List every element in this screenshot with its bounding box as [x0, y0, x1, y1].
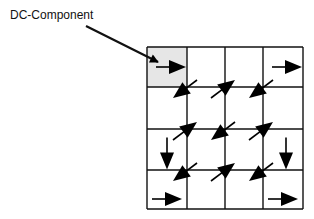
motion-vector-arrow [268, 192, 298, 206]
motion-vector-arrow [249, 163, 273, 181]
pointer-arrow [86, 26, 158, 62]
motion-vector-arrow [152, 192, 182, 206]
motion-vector-arrow [173, 163, 197, 181]
motion-vector-arrow [249, 122, 273, 140]
motion-vector-arrow [160, 138, 174, 170]
motion-vector-arrow [279, 138, 293, 170]
motion-vector-arrow [211, 122, 235, 140]
motion-vector-arrow [211, 163, 235, 181]
motion-vector-arrow [249, 80, 273, 98]
motion-vector-arrow [173, 122, 197, 140]
dct-grid-diagram [0, 0, 314, 219]
motion-vector-arrow [211, 80, 235, 98]
motion-vector-arrow [272, 60, 302, 74]
